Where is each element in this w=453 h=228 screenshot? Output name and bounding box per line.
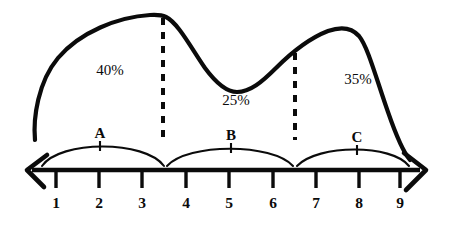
- percent-label-a: 40%: [96, 62, 124, 78]
- axis-label-5: 5: [225, 194, 233, 211]
- bracket-arc-c: [297, 150, 409, 167]
- axis-label-6: 6: [269, 194, 277, 211]
- percent-label-c: 35%: [344, 71, 372, 87]
- bracket-label-b: B: [226, 127, 236, 143]
- axis-label-9: 9: [396, 194, 404, 211]
- distribution-curve-diagram: 1 2 3 4 5 6 7 8 9 A B C 40% 25% 35%: [0, 0, 453, 228]
- axis-label-7: 7: [312, 194, 320, 211]
- diagram-canvas: 1 2 3 4 5 6 7 8 9 A B C 40% 25% 35%: [0, 0, 453, 228]
- bracket-label-c: C: [352, 129, 363, 145]
- axis-label-8: 8: [355, 194, 363, 211]
- bracket-arc-a: [42, 147, 164, 167]
- axis-label-2: 2: [95, 194, 103, 211]
- axis-label-4: 4: [182, 194, 190, 211]
- axis-label-3: 3: [138, 194, 146, 211]
- axis-label-1: 1: [52, 194, 60, 211]
- bracket-label-a: A: [95, 125, 106, 141]
- percent-label-b: 25%: [222, 92, 250, 108]
